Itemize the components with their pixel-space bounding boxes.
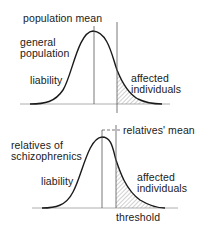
relatives-label-line2: schizophrenics [11,151,82,162]
bottom-affected-label-line2: individuals [137,183,187,194]
population-mean-label: population mean [23,13,102,24]
top-liability-label: liability [30,75,62,86]
top-affected-label-line2: individuals [131,84,181,95]
threshold-label: threshold [116,212,160,223]
general-population-label-line2: population [20,48,69,59]
bottom-liability-label: liability [41,176,73,187]
bottom-panel [32,125,178,208]
relatives-mean-label: relatives' mean [123,125,195,136]
